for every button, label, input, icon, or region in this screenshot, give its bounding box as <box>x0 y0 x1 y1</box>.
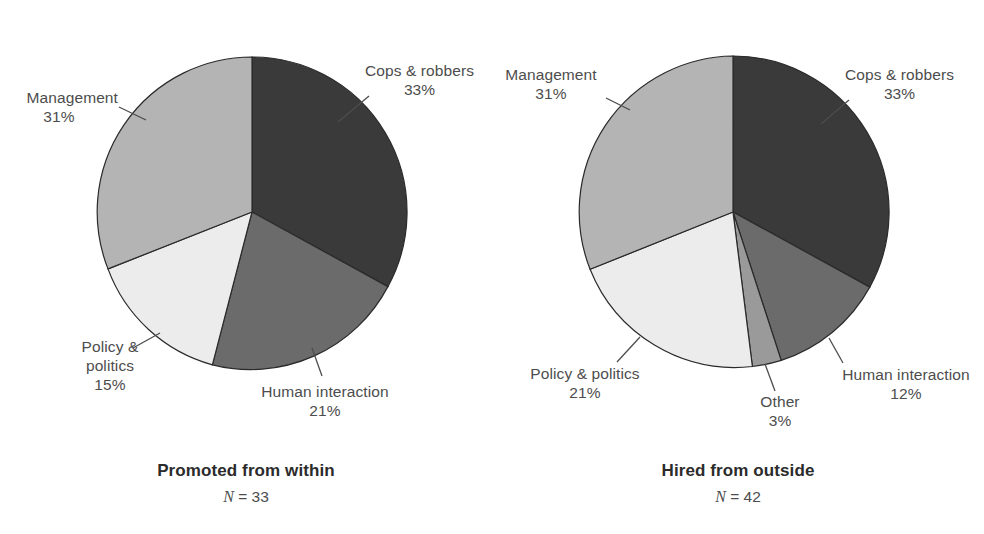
label-policy-and-politics-left: Policy & politics 15% <box>50 337 170 394</box>
label-text: Management <box>505 66 596 83</box>
label-text: Cops & robbers <box>845 66 954 83</box>
figure-two-pie-charts: Cops & robbers 33% Management 31% Policy… <box>0 0 984 534</box>
label-text: Human interaction <box>261 383 389 400</box>
label-percent: 21% <box>510 383 660 402</box>
sample-size-right: N = 42 <box>492 488 984 506</box>
label-percent: 21% <box>235 401 415 420</box>
n-equals: = <box>234 488 252 505</box>
sample-size-left: N = 33 <box>0 488 492 506</box>
n-value: 33 <box>252 488 269 505</box>
leader-line-other <box>765 364 775 391</box>
label-policy-and-politics-right: Policy & politics 21% <box>510 364 660 402</box>
leader-line-policy <box>617 337 640 362</box>
chart-title-right: Hired from outside <box>492 461 984 481</box>
label-text-line1: Policy & <box>82 338 139 355</box>
label-text: Management <box>27 89 118 106</box>
caption-promoted-from-within: Promoted from within N = 33 <box>0 461 492 506</box>
n-symbol: N <box>223 488 234 505</box>
leader-line-human <box>829 338 843 363</box>
chart-title-left: Promoted from within <box>0 461 492 481</box>
label-cops-and-robbers-left: Cops & robbers 33% <box>365 61 474 99</box>
label-text-line2: politics <box>50 356 170 375</box>
label-text: Other <box>760 393 799 410</box>
pie-slices-right <box>579 56 889 367</box>
n-equals: = <box>726 488 744 505</box>
label-percent: 3% <box>744 411 816 430</box>
label-text: Policy & politics <box>530 365 639 382</box>
label-percent: 31% <box>0 107 118 126</box>
label-human-interaction-right: Human interaction 12% <box>828 365 984 403</box>
label-text: Human interaction <box>842 366 970 383</box>
n-value: 42 <box>744 488 761 505</box>
label-percent: 33% <box>365 80 474 99</box>
label-percent: 33% <box>845 84 954 103</box>
panel-promoted-from-within: Cops & robbers 33% Management 31% Policy… <box>0 0 492 534</box>
label-management-right: Management 31% <box>492 65 610 103</box>
label-other-right: Other 3% <box>744 392 816 430</box>
label-percent: 31% <box>492 84 610 103</box>
label-percent: 12% <box>828 384 984 403</box>
label-cops-and-robbers-right: Cops & robbers 33% <box>845 65 954 103</box>
n-symbol: N <box>715 488 726 505</box>
label-text: Cops & robbers <box>365 62 474 79</box>
label-management-left: Management 31% <box>0 88 118 126</box>
caption-hired-from-outside: Hired from outside N = 42 <box>492 461 984 506</box>
panel-hired-from-outside: Cops & robbers 33% Management 31% Policy… <box>492 0 984 534</box>
label-percent: 15% <box>50 375 170 394</box>
label-human-interaction-left: Human interaction 21% <box>235 382 415 420</box>
